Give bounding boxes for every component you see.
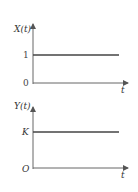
tick-low: 0 bbox=[23, 78, 29, 88]
tick-high: K bbox=[21, 127, 30, 137]
input-chart: X(t) 1 0 t bbox=[13, 24, 128, 95]
tick-low: O bbox=[22, 164, 30, 174]
tick-high: 1 bbox=[23, 50, 29, 60]
y-axis-label: X(t) bbox=[13, 24, 32, 34]
output-chart: Y(t) K O t bbox=[14, 101, 128, 180]
x-axis-label: t bbox=[121, 85, 125, 95]
step-response-figure: X(t) 1 0 t Y(t) K O t bbox=[0, 0, 138, 192]
y-axis-label: Y(t) bbox=[14, 101, 31, 111]
x-axis-label: t bbox=[121, 170, 125, 180]
